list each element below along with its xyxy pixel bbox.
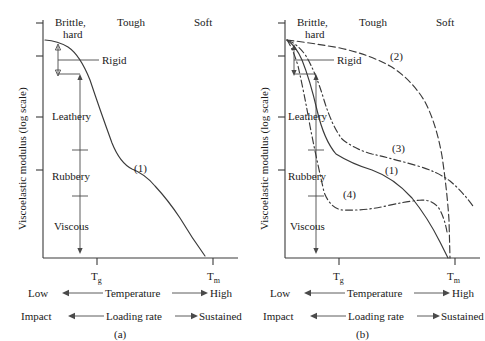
rigid-arrow-down-icon bbox=[291, 70, 296, 76]
scalebar-loading-center: Loading rate bbox=[106, 310, 162, 322]
scalebar-temperature-right: High bbox=[210, 287, 233, 299]
xtick-label-tg: Tg bbox=[333, 270, 344, 285]
side-label-leathery: Leathery bbox=[52, 110, 92, 122]
panel-b-loading-rate-bar: Impact Loading rate Sustained bbox=[263, 310, 484, 322]
top-label-brittle-line1: Brittle, bbox=[297, 16, 328, 28]
panel-a-caption: (a) bbox=[114, 328, 127, 341]
panel-a-temperature-bar: Low Temperature High bbox=[28, 287, 233, 299]
curve-label-a-1: (1) bbox=[134, 162, 147, 175]
panel-a-svg: Viscoelastic modulus (log scale) Brittle… bbox=[0, 0, 243, 341]
loading-arrow-right-icon bbox=[433, 313, 440, 319]
loading-arrow-left-icon bbox=[310, 313, 317, 319]
figure-viscoelastic-modulus: Viscoelastic modulus (log scale) Brittle… bbox=[0, 0, 485, 341]
top-label-brittle-line2: hard bbox=[63, 28, 83, 40]
xtick-label-tg: Tg bbox=[91, 270, 102, 285]
top-label-soft: Soft bbox=[436, 16, 454, 28]
side-label-viscous: Viscous bbox=[290, 220, 325, 232]
panel-b-top-region-labels: Brittle, hard Tough Soft bbox=[297, 16, 454, 40]
curve-label-b-3: (3) bbox=[392, 142, 405, 155]
top-label-brittle-line1: Brittle, bbox=[55, 16, 86, 28]
scalebar-temperature-left: Low bbox=[28, 287, 48, 299]
scalebar-loading-right: Sustained bbox=[441, 310, 484, 322]
loading-arrow-right-icon bbox=[191, 313, 198, 319]
loading-arrow-left-icon bbox=[68, 313, 75, 319]
panel-b-xtick-labels: Tg Tm bbox=[333, 270, 461, 285]
panel-a-rigid-marker: Rigid bbox=[55, 44, 127, 76]
side-label-rubbery: Rubbery bbox=[52, 170, 90, 182]
xtick-label-tm: Tm bbox=[207, 270, 221, 285]
scalebar-loading-right: Sustained bbox=[199, 310, 242, 322]
panel-a-region-brackets: Leathery Rubbery Viscous bbox=[52, 74, 92, 254]
panel-b-temperature-bar: Low Temperature High bbox=[270, 287, 475, 299]
scalebar-temperature-center: Temperature bbox=[347, 287, 403, 299]
region-arrow-top-icon bbox=[77, 74, 82, 80]
curve-label-b-4: (4) bbox=[343, 188, 356, 201]
panel-a-top-region-labels: Brittle, hard Tough Soft bbox=[55, 16, 212, 40]
scalebar-loading-left: Impact bbox=[21, 310, 52, 322]
region-arrow-bottom-icon bbox=[313, 248, 318, 254]
temperature-arrow-right-icon bbox=[201, 290, 208, 296]
panel-b-svg: Viscoelastic modulus (log scale) Brittle… bbox=[242, 0, 485, 341]
top-label-soft: Soft bbox=[194, 16, 212, 28]
side-label-rigid: Rigid bbox=[337, 54, 362, 66]
panel-b-region-brackets: Leathery Rubbery Viscous bbox=[288, 74, 328, 254]
curve-label-b-2: (2) bbox=[390, 50, 403, 63]
scalebar-temperature-center: Temperature bbox=[105, 287, 161, 299]
panel-a: Viscoelastic modulus (log scale) Brittle… bbox=[0, 0, 243, 341]
y-axis-label: Viscoelastic modulus (log scale) bbox=[16, 87, 29, 230]
temperature-arrow-left-icon bbox=[304, 290, 311, 296]
panel-a-xtick-labels: Tg Tm bbox=[91, 270, 221, 285]
top-label-brittle-line2: hard bbox=[305, 28, 325, 40]
scalebar-temperature-right: High bbox=[452, 287, 475, 299]
curve-label-b-1: (1) bbox=[385, 164, 398, 177]
panel-b-ylabel-group: Viscoelastic modulus (log scale) bbox=[258, 87, 271, 230]
side-label-viscous: Viscous bbox=[54, 220, 89, 232]
side-label-rigid: Rigid bbox=[102, 54, 127, 66]
scalebar-loading-center: Loading rate bbox=[348, 310, 404, 322]
top-label-tough: Tough bbox=[117, 16, 145, 28]
curve-b-4 bbox=[287, 40, 447, 232]
region-arrow-bottom-icon bbox=[77, 248, 82, 254]
panel-b: Viscoelastic modulus (log scale) Brittle… bbox=[242, 0, 485, 341]
panel-b-caption: (b) bbox=[356, 328, 369, 341]
y-axis-label: Viscoelastic modulus (log scale) bbox=[258, 87, 271, 230]
temperature-arrow-left-icon bbox=[62, 290, 69, 296]
scalebar-loading-left: Impact bbox=[263, 310, 294, 322]
top-label-tough: Tough bbox=[359, 16, 387, 28]
panel-a-ylabel-group: Viscoelastic modulus (log scale) bbox=[16, 87, 29, 230]
panel-a-loading-rate-bar: Impact Loading rate Sustained bbox=[21, 310, 242, 322]
xtick-label-tm: Tm bbox=[447, 270, 461, 285]
scalebar-temperature-left: Low bbox=[270, 287, 290, 299]
temperature-arrow-right-icon bbox=[443, 290, 450, 296]
